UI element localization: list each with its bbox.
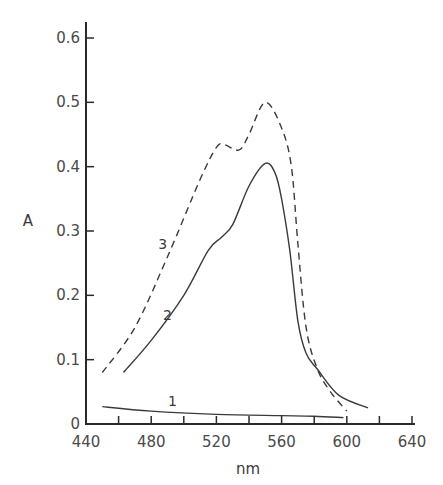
x-tick-label: 480: [137, 433, 166, 451]
curve-label-3: 3: [158, 236, 167, 252]
curve-1: [102, 407, 343, 418]
y-axis-title: A: [23, 212, 34, 230]
y-tick-label: 0: [70, 415, 80, 433]
x-tick-label: 560: [267, 433, 296, 451]
curve-label-2: 2: [163, 307, 172, 323]
x-tick-label: 600: [332, 433, 361, 451]
x-tick-label: 520: [202, 433, 231, 451]
curves: [102, 102, 368, 417]
axes: 00.10.20.30.40.50.6440480520560600640: [56, 22, 426, 451]
x-tick-label: 640: [398, 433, 427, 451]
y-tick-label: 0.1: [56, 351, 80, 369]
y-tick-label: 0.4: [56, 158, 80, 176]
curve-3: [102, 102, 346, 411]
x-axis-title: nm: [236, 460, 260, 478]
y-tick-label: 0.6: [56, 29, 80, 47]
y-tick-label: 0.3: [56, 222, 80, 240]
absorbance-spectrum-chart: 00.10.20.30.40.50.6440480520560600640 nm…: [0, 0, 443, 485]
curve-2: [124, 163, 369, 408]
y-tick-label: 0.2: [56, 286, 80, 304]
curve-label-1: 1: [168, 393, 177, 409]
x-tick-label: 440: [72, 433, 101, 451]
y-tick-label: 0.5: [56, 93, 80, 111]
